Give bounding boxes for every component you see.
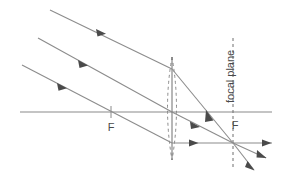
ray-diagram-figure: F F focal plane xyxy=(0,0,287,177)
refracted-ray-arrowheads xyxy=(189,110,214,147)
focal-point-right-label: F xyxy=(232,119,239,131)
incoming-ray-arrowheads xyxy=(57,29,106,91)
outgoing-rays xyxy=(233,143,272,170)
focal-point-left-label: F xyxy=(108,121,115,133)
focal-plane-label: focal plane xyxy=(224,50,236,103)
outgoing-ray-arrowheads xyxy=(245,140,272,171)
ray-diagram-canvas: F F focal plane xyxy=(0,0,287,177)
